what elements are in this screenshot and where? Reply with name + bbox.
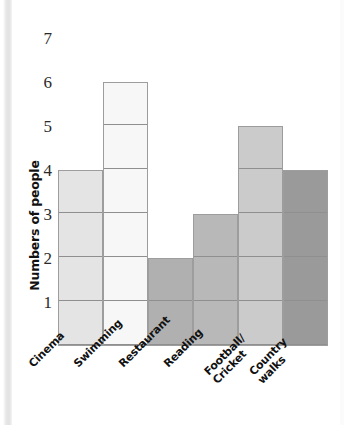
bar-unit-cell <box>283 213 328 257</box>
bar-unit-cell <box>58 170 103 213</box>
y-tick-label-1: 1 <box>30 294 52 311</box>
y-tick-label-2: 2 <box>30 250 52 267</box>
bar-unit-cell <box>103 213 148 257</box>
bar-unit-cell <box>238 169 283 213</box>
bar-chart-screenshot: Numbers of people 7654321 CinemaSwimming… <box>0 0 344 425</box>
bar-unit-cell <box>283 170 328 213</box>
bar-unit-cell <box>283 301 328 345</box>
bar-reading[interactable] <box>193 214 238 346</box>
y-tick-label-7: 7 <box>30 30 52 47</box>
bar-unit-cell <box>103 169 148 213</box>
bar-unit-cell <box>238 126 283 169</box>
bar-unit-cell <box>103 82 148 125</box>
bar-swimming[interactable] <box>103 82 148 346</box>
bar-unit-cell <box>283 257 328 301</box>
bar-unit-cell <box>238 213 283 257</box>
bar-unit-cell <box>103 125 148 169</box>
plot-area <box>58 70 330 346</box>
bar-football-cricket[interactable] <box>238 126 283 346</box>
x-label-cinema: Cinema <box>27 330 67 370</box>
y-tick-label-6: 6 <box>30 74 52 91</box>
y-tick-label-3: 3 <box>30 206 52 223</box>
bar-unit-cell <box>148 258 193 301</box>
y-tick-label-4: 4 <box>30 162 52 179</box>
x-label-line: Cinema <box>27 330 67 370</box>
bar-unit-cell <box>238 257 283 301</box>
bar-unit-cell <box>193 214 238 257</box>
y-tick-label-5: 5 <box>30 118 52 135</box>
bar-unit-cell <box>58 257 103 301</box>
bar-unit-cell <box>103 257 148 301</box>
x-axis-category-labels: CinemaSwimmingRestaurantReadingFootball/… <box>0 350 344 425</box>
bar-unit-cell <box>58 213 103 257</box>
bar-cinema[interactable] <box>58 170 103 346</box>
bar-unit-cell <box>193 257 238 301</box>
bar-country-walks[interactable] <box>283 170 328 346</box>
